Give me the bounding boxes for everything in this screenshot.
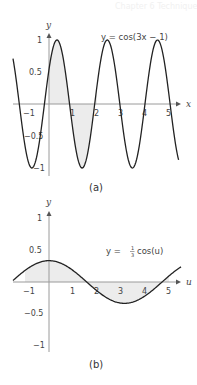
u-axis-label-b: u — [186, 277, 192, 287]
y-axis-label-a: y — [45, 20, 52, 30]
y-tick-b: −0.5 — [24, 309, 43, 318]
y-tick-a: 1 — [37, 36, 42, 45]
x-axis-label-a: x — [186, 99, 191, 109]
equation-a: y = cos(3x − 1) — [101, 32, 168, 42]
equation-b: y = 1 3 cos(u) — [106, 245, 163, 258]
y-tick-a: 0.5 — [29, 68, 42, 77]
y-axis-label-b: y — [45, 197, 52, 207]
figure: Chapter 6 Techniques of Antidifferentiat… — [0, 0, 197, 385]
x-axis-arrow-icon — [176, 102, 181, 107]
y-tick-b: 1 — [37, 214, 42, 223]
equation-b-frac-den: 3 — [131, 252, 134, 258]
x-tick-a: 2 — [94, 109, 99, 118]
caption-b: (b) — [89, 359, 103, 370]
x-tick-b: −1 — [23, 287, 35, 296]
equation-b-frac-num: 1 — [131, 245, 134, 251]
chart-b: u y −1 1 2 3 4 5 1 0.5 −0.5 −1 y = 1 3 c… — [13, 197, 192, 370]
y-tick-b: −1 — [33, 341, 45, 350]
x-tick-b: 5 — [166, 287, 171, 296]
x-tick-b: 3 — [118, 287, 123, 296]
caption-a: (a) — [89, 182, 103, 193]
u-axis-arrow-icon — [176, 280, 181, 285]
equation-b-suffix: cos(u) — [137, 246, 163, 256]
equation-b-prefix: y = — [106, 246, 121, 256]
y-tick-b: 0.5 — [29, 246, 42, 255]
chart-a: x y −1 1 2 3 4 5 1 0.5 −0.5 −1 y = cos(3… — [13, 20, 191, 193]
x-tick-a: −1 — [23, 109, 35, 118]
header-text: Chapter 6 Techniques of Antidifferentiat… — [115, 2, 197, 11]
y-axis-arrow-icon — [47, 33, 52, 38]
x-tick-b: 1 — [70, 287, 75, 296]
y-axis-arrow-icon — [47, 211, 52, 216]
